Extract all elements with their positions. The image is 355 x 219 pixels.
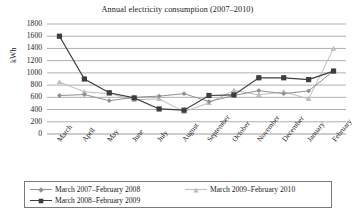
- chart-legend: March 2007–February 2008 March 2009–Febr…: [24, 181, 332, 208]
- data-point: [306, 77, 311, 82]
- legend-marker-diamond-icon: [30, 185, 52, 194]
- data-point: [181, 108, 186, 113]
- legend-item-series-1[interactable]: March 2007–February 2008: [30, 185, 140, 194]
- legend-marker-square-icon: [30, 196, 52, 205]
- data-point: [281, 75, 286, 80]
- series-3: [57, 46, 337, 114]
- legend-item-series-2[interactable]: March 2008–February 2009: [30, 196, 140, 205]
- legend-label-series-1: March 2007–February 2008: [55, 185, 140, 194]
- data-point: [206, 93, 211, 98]
- chart-container: Annual electricity consumption (2007–201…: [0, 0, 355, 219]
- data-point: [132, 95, 137, 100]
- data-point: [231, 92, 236, 97]
- data-point: [82, 76, 87, 81]
- legend-item-series-3[interactable]: March 2009–February 2010: [185, 185, 295, 194]
- data-point: [182, 91, 187, 96]
- data-point: [57, 34, 62, 39]
- data-point: [256, 75, 261, 80]
- legend-marker-triangle-icon: [185, 185, 207, 194]
- legend-label-series-3: March 2009–February 2010: [210, 185, 295, 194]
- data-point: [57, 79, 63, 84]
- series-layer: [57, 34, 337, 114]
- data-point: [107, 90, 112, 95]
- data-point: [107, 98, 112, 103]
- data-point: [256, 88, 261, 93]
- data-point: [231, 88, 237, 93]
- data-point: [331, 68, 336, 73]
- data-point: [157, 94, 162, 99]
- data-point: [157, 106, 162, 111]
- legend-label-series-2: March 2008–February 2009: [55, 196, 140, 205]
